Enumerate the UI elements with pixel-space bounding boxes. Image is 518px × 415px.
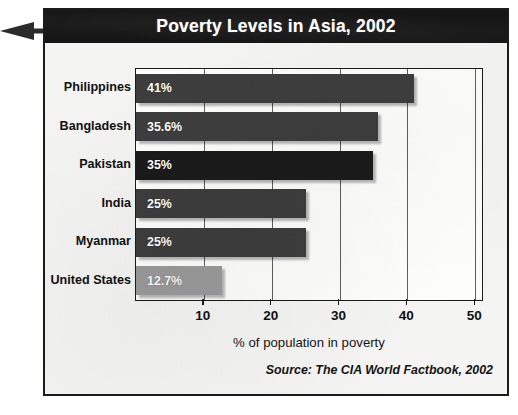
x-axis-tick [338, 299, 339, 305]
source-note: Source: The CIA World Factbook, 2002 [266, 363, 493, 377]
x-axis-tick [474, 299, 475, 305]
category-axis-labels: PhilippinesBangladeshPakistanIndiaMyanma… [45, 43, 131, 394]
x-axis-tick [406, 299, 407, 305]
page-title: Poverty Levels in Asia, 2002 [156, 16, 395, 37]
bar-value-label: 35% [147, 158, 172, 172]
category-label: Myanmar [45, 235, 131, 248]
bar: 35.6% [136, 112, 378, 141]
arrow-right-icon [0, 20, 45, 42]
bar-value-label: 25% [147, 235, 172, 249]
category-label: Philippines [45, 81, 131, 94]
category-label: United States [45, 274, 131, 287]
x-axis-tick [270, 299, 271, 305]
x-axis-tick-label: 20 [263, 308, 278, 323]
chart-body: PhilippinesBangladeshPakistanIndiaMyanma… [45, 43, 507, 394]
bar-row: 25% [136, 228, 482, 257]
plot-area: 41%35.6%35%25%25%12.7% [135, 68, 483, 301]
chart-figure: Poverty Levels in Asia, 2002 Philippines… [43, 8, 509, 396]
x-axis-title: % of population in poverty [135, 335, 483, 350]
bar-row: 12.7% [136, 266, 482, 295]
bar-row: 25% [136, 189, 482, 218]
bar-value-label: 25% [147, 197, 172, 211]
bar: 35% [136, 151, 373, 180]
bar: 41% [136, 74, 414, 103]
bar: 25% [136, 228, 306, 257]
x-axis-tick-label: 50 [467, 308, 482, 323]
chart-title-bar: Poverty Levels in Asia, 2002 [45, 10, 507, 43]
x-axis-tick-label: 40 [399, 308, 414, 323]
bar-value-label: 12.7% [147, 274, 182, 288]
bar: 25% [136, 189, 306, 218]
bar-value-label: 41% [147, 81, 172, 95]
category-label: Pakistan [45, 158, 131, 171]
category-label: Bangladesh [45, 120, 131, 133]
bar: 12.7% [136, 266, 222, 295]
x-axis-tick-label: 10 [195, 308, 210, 323]
x-axis-tick [202, 299, 203, 305]
bar-value-label: 35.6% [147, 120, 182, 134]
bar-row: 41% [136, 74, 482, 103]
x-axis-tick-label: 30 [331, 308, 346, 323]
category-label: India [45, 197, 131, 210]
bar-row: 35.6% [136, 112, 482, 141]
bar-row: 35% [136, 151, 482, 180]
